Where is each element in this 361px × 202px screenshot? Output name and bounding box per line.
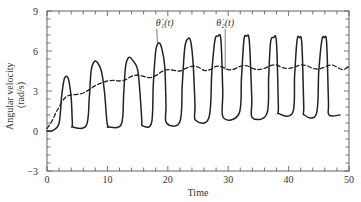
y-axis-label-line1: Angular velocity [4, 63, 15, 130]
data-series [47, 35, 349, 132]
x-tick-label: 20 [163, 174, 173, 185]
y-axis-label: Angular velocity (rad/s) [4, 60, 27, 130]
x-tick-label: 30 [223, 174, 233, 185]
y-tick-label: 6 [33, 46, 38, 57]
x-tick-label: 0 [45, 174, 50, 185]
x-tick-label: 10 [102, 174, 112, 185]
x-tick-label: 50 [344, 174, 354, 185]
angular-velocity-chart: 01020304050−30369 θ̇₁(t)θ̇₂(t) Time Angu… [0, 0, 361, 202]
y-tick-label: 3 [33, 86, 38, 97]
theta2_dot-annotation: θ̇₂(t) [216, 17, 234, 29]
y-tick-label: −3 [27, 166, 38, 177]
axis-tick-labels: 01020304050−30369 [27, 6, 354, 186]
x-tick-label: 40 [284, 174, 294, 185]
theta1_dot-line [47, 35, 340, 132]
theta1_dot-annotation: θ̇₁(t) [156, 17, 174, 29]
annotations: θ̇₁(t)θ̇₂(t) [156, 17, 235, 70]
y-tick-label: 9 [33, 6, 38, 17]
y-axis-label-line2: (rad/s) [15, 82, 27, 108]
y-tick-label: 0 [33, 126, 38, 137]
theta1_dot-pointer-line [157, 29, 158, 45]
x-axis-label: Time [188, 187, 209, 198]
